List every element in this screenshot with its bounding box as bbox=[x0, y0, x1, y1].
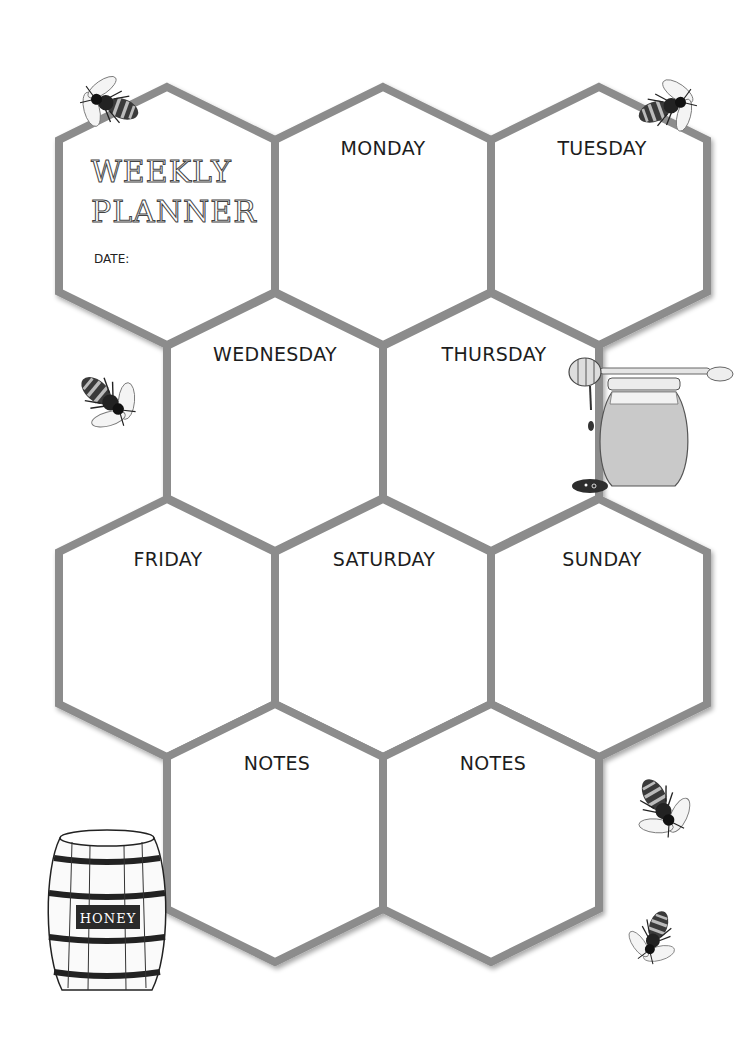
planner-title-line2: PLANNER bbox=[91, 193, 257, 231]
notes-cell-2[interactable] bbox=[383, 704, 599, 962]
notes-cell-1[interactable] bbox=[167, 704, 383, 962]
date-label: DATE: bbox=[94, 252, 129, 266]
planner-title-line1: WEEKLY bbox=[91, 153, 232, 191]
sunday-label: SUNDAY bbox=[502, 548, 702, 570]
notes-label-1: NOTES bbox=[177, 752, 377, 774]
monday-label: MONDAY bbox=[283, 137, 483, 159]
bee-icon bbox=[62, 356, 152, 446]
honey-jar-icon bbox=[600, 378, 688, 486]
saturday-label: SATURDAY bbox=[284, 548, 484, 570]
thursday-label: THURSDAY bbox=[394, 343, 594, 365]
friday-label: FRIDAY bbox=[68, 548, 268, 570]
notes-label-2: NOTES bbox=[393, 752, 593, 774]
barrel-label: HONEY bbox=[80, 911, 136, 926]
honey-barrel-icon: HONEY bbox=[48, 830, 166, 990]
tuesday-label: TUESDAY bbox=[502, 137, 702, 159]
bee-icon bbox=[618, 902, 689, 973]
weekly-planner-page: HONEY WEEKLY PLANNER DATE: MONDAY TUESDA… bbox=[0, 0, 750, 1053]
bee-icon bbox=[618, 765, 705, 852]
wednesday-label: WEDNESDAY bbox=[175, 343, 375, 365]
